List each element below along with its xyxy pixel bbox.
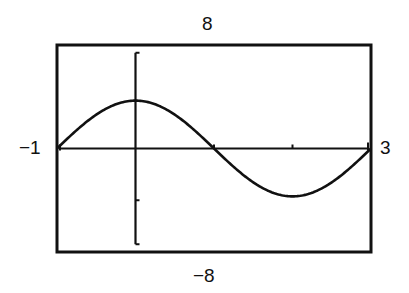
- ymin-label: −8: [193, 266, 215, 285]
- ymax-label: 8: [202, 14, 213, 33]
- xmax-label: 3: [380, 138, 391, 157]
- xmin-label: −1: [19, 138, 41, 157]
- graph-window: [0, 0, 409, 293]
